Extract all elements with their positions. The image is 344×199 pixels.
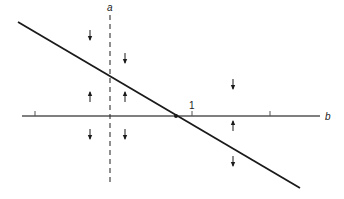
arrow-down-icon bbox=[123, 129, 127, 140]
axis-label-a: a bbox=[107, 2, 113, 13]
tick-label-1: 1 bbox=[189, 100, 195, 111]
axis-label-b: b bbox=[325, 111, 331, 122]
intersection-point bbox=[174, 114, 178, 118]
diagonal-line bbox=[18, 22, 300, 188]
arrow-down-icon bbox=[88, 129, 92, 140]
arrow-up-icon bbox=[123, 91, 127, 102]
arrow-down-icon bbox=[231, 156, 235, 167]
phase-diagram: 1 b a bbox=[0, 0, 344, 199]
arrow-down-icon bbox=[88, 30, 92, 41]
arrow-down-icon bbox=[231, 79, 235, 90]
arrow-down-icon bbox=[123, 53, 127, 64]
arrow-up-icon bbox=[231, 120, 235, 131]
arrow-up-icon bbox=[88, 91, 92, 102]
